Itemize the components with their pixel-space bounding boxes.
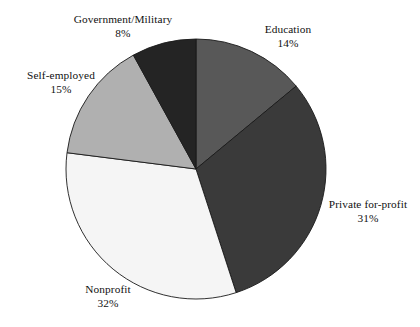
slice-label-name: Nonprofit bbox=[48, 282, 168, 296]
slice-label-government-military: Government/Military 8% bbox=[48, 12, 198, 41]
slice-label-name: Self-employed bbox=[2, 68, 120, 82]
slice-label-value: 14% bbox=[228, 36, 348, 50]
slice-label-value: 32% bbox=[48, 296, 168, 310]
slice-label-private-for-profit: Private for-profit 31% bbox=[316, 197, 420, 226]
slice-label-value: 15% bbox=[2, 82, 120, 96]
slice-label-value: 31% bbox=[316, 211, 420, 225]
slice-label-self-employed: Self-employed 15% bbox=[2, 68, 120, 97]
slice-label-value: 8% bbox=[48, 26, 198, 40]
slice-label-name: Private for-profit bbox=[316, 197, 420, 211]
pie-chart: Government/Military 8% Education 14% Sel… bbox=[0, 0, 420, 327]
slice-label-nonprofit: Nonprofit 32% bbox=[48, 282, 168, 311]
pie-chart-canvas bbox=[0, 0, 420, 327]
slice-label-education: Education 14% bbox=[228, 22, 348, 51]
slice-label-name: Government/Military bbox=[48, 12, 198, 26]
slice-label-name: Education bbox=[228, 22, 348, 36]
